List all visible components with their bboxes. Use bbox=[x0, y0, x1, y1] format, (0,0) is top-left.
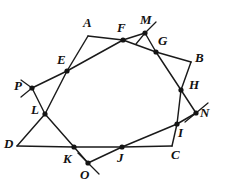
point-label-n: N bbox=[200, 106, 209, 119]
point-label-o: O bbox=[80, 168, 89, 181]
point-label-j: J bbox=[117, 151, 124, 164]
point-label-g: G bbox=[158, 34, 167, 47]
vertex-dot-n bbox=[193, 110, 198, 115]
vertex-dot-k bbox=[71, 144, 76, 149]
point-label-m: M bbox=[140, 13, 152, 26]
vertex-dot-j bbox=[119, 144, 124, 149]
vertex-dot-h bbox=[178, 87, 183, 92]
segment-f-g bbox=[123, 40, 156, 52]
point-label-e: E bbox=[57, 53, 66, 66]
vertex-dot-l bbox=[42, 111, 47, 116]
segment-l-e bbox=[45, 71, 67, 114]
vertex-dot-f bbox=[120, 37, 125, 42]
point-label-p: P bbox=[14, 79, 22, 92]
vertices-layer bbox=[29, 30, 198, 165]
segment-c-j bbox=[122, 146, 172, 147]
vertex-dot-o bbox=[85, 160, 90, 165]
segment-a-f bbox=[88, 36, 123, 40]
vertex-dot-m bbox=[142, 30, 147, 35]
segment-h-n bbox=[181, 90, 196, 113]
segment-d-l bbox=[17, 114, 45, 146]
vertex-dot-g bbox=[153, 49, 158, 54]
point-label-k: K bbox=[63, 152, 72, 165]
point-label-a: A bbox=[83, 16, 92, 29]
segment-k-l bbox=[45, 114, 74, 147]
segment-i-c bbox=[172, 124, 177, 146]
point-label-l: L bbox=[31, 103, 39, 116]
point-label-h: H bbox=[189, 78, 199, 91]
point-label-d: D bbox=[4, 137, 13, 150]
point-label-f: F bbox=[117, 21, 126, 34]
point-label-c: C bbox=[171, 148, 180, 161]
segment-h-i bbox=[177, 90, 181, 124]
point-label-b: B bbox=[195, 51, 204, 64]
figure-canvas bbox=[0, 0, 228, 196]
segment-k-d bbox=[17, 146, 74, 147]
point-label-i: I bbox=[178, 126, 183, 139]
segment-p-e bbox=[32, 71, 67, 88]
segments-layer bbox=[17, 33, 196, 163]
geometry-figure: ABCDEFGHIJKLMNOP bbox=[0, 0, 228, 196]
segment-i-j bbox=[122, 124, 177, 147]
vertex-dot-p bbox=[29, 85, 34, 90]
segment-e-f bbox=[67, 40, 123, 71]
vertex-dot-e bbox=[64, 68, 69, 73]
